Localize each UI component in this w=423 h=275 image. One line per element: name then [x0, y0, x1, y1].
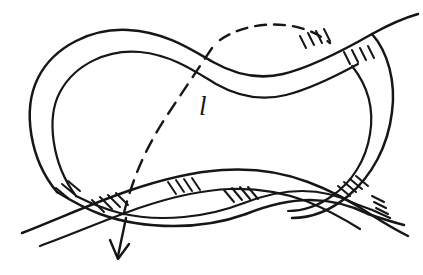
- dashed-hidden-arc-top: [220, 25, 330, 43]
- knot-drawing-canvas: [0, 0, 423, 275]
- band-right-inner-edge: [288, 66, 371, 211]
- knot-diagram-figure: l: [0, 0, 423, 275]
- band-lower-strand-inner: [40, 189, 360, 246]
- band-inner-edge-left-top: [53, 52, 358, 196]
- crossing-hatch-marks-group: [56, 29, 388, 214]
- direction-arrow-group: [110, 218, 129, 259]
- band-lower-left-lobe-outer: [57, 192, 246, 226]
- loop-label: l: [199, 93, 207, 120]
- hatch-upper-right-left: [300, 29, 330, 48]
- band-lower-strands-group: [22, 170, 408, 247]
- hatch-lower-mid-centre: [168, 178, 200, 194]
- hatch-upper-right-right: [344, 46, 374, 64]
